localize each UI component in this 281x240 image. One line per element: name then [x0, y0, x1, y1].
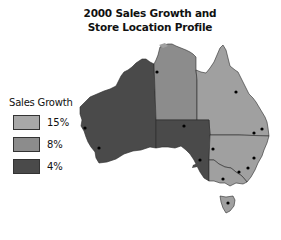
- legend-item-15: 15%: [9, 114, 73, 130]
- legend: Sales Growth 15% 8% 4%: [9, 97, 73, 180]
- store-dot: [198, 158, 201, 161]
- store-dot: [252, 156, 255, 159]
- store-dot: [237, 170, 240, 173]
- store-dot: [260, 127, 263, 130]
- legend-item-4: 4%: [9, 158, 73, 174]
- store-dot: [211, 147, 214, 150]
- legend-label: 4%: [47, 161, 63, 172]
- island-kangaroo: [192, 163, 198, 168]
- store-dot: [234, 90, 237, 93]
- legend-swatch: [13, 115, 40, 130]
- legend-title: Sales Growth: [9, 97, 73, 108]
- store-dot: [246, 166, 249, 169]
- legend-swatch: [13, 137, 40, 152]
- legend-label: 15%: [47, 117, 69, 128]
- region-south-australia: [156, 120, 210, 181]
- region-western-australia: [80, 59, 156, 163]
- store-dot: [155, 70, 158, 73]
- region-northern-territory: [154, 44, 197, 120]
- legend-label: 8%: [47, 139, 63, 150]
- legend-item-8: 8%: [9, 136, 73, 152]
- legend-swatch: [13, 159, 40, 174]
- store-dot: [226, 201, 229, 204]
- store-dot: [221, 177, 224, 180]
- store-dot: [182, 124, 185, 127]
- store-dot: [83, 126, 86, 129]
- store-dot: [252, 131, 255, 134]
- store-dot: [97, 146, 100, 149]
